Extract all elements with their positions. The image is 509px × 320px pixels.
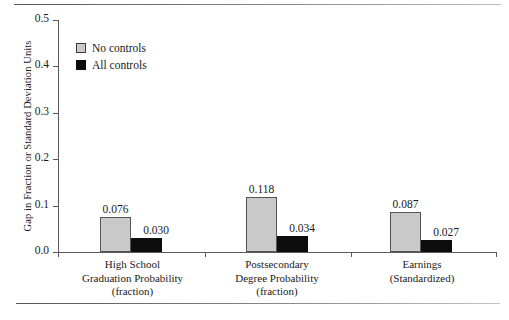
bar-value-no-controls-earnings: 0.087 (393, 198, 419, 210)
y-tick-label-5: 0.5 (35, 12, 49, 24)
chart-legend: No controls All controls (76, 40, 147, 74)
x-category-line-3: (fraction) (198, 285, 356, 299)
legend-label-all-controls: All controls (92, 59, 147, 71)
x-category-line-1: High School (50, 258, 215, 272)
bar-all-controls-earnings: 0.027 (421, 240, 452, 253)
x-tick-end (496, 252, 497, 257)
bar-value-no-controls-high-school: 0.076 (103, 203, 129, 215)
y-axis-title: Gap in Fraction or Standard Deviation Un… (22, 20, 36, 252)
top-rule (14, 4, 501, 5)
y-tick-5: 0.5 (53, 20, 58, 21)
bar-value-all-controls-high-school: 0.030 (143, 224, 169, 236)
bar-no-controls-earnings: 0.087 (390, 212, 421, 252)
y-tick-2: 0.2 (53, 159, 58, 160)
bar-no-controls-postsecondary: 0.118 (246, 197, 277, 252)
x-category-label-postsecondary: Postsecondary Degree Probability (fracti… (198, 258, 356, 299)
y-tick-1: 0.1 (53, 206, 58, 207)
x-category-line-1: Earnings (348, 258, 496, 272)
x-category-label-high-school: High School Graduation Probability (frac… (50, 258, 215, 299)
x-tick-2 (351, 252, 352, 257)
bar-value-all-controls-earnings: 0.027 (433, 226, 459, 238)
y-tick-label-4: 0.4 (35, 58, 49, 70)
x-tick-1 (205, 252, 206, 257)
bar-all-controls-high-school: 0.030 (131, 238, 162, 252)
legend-item-no-controls: No controls (76, 40, 147, 55)
x-tick-start (58, 252, 59, 257)
y-tick-label-1: 0.1 (35, 198, 49, 210)
x-axis-line (58, 252, 497, 253)
bar-value-all-controls-postsecondary: 0.034 (289, 222, 315, 234)
y-tick-label-2: 0.2 (35, 151, 49, 163)
x-category-line-3: (fraction) (50, 285, 215, 299)
y-tick-label-3: 0.3 (35, 105, 49, 117)
legend-swatch-no-controls (76, 43, 86, 53)
bar-all-controls-postsecondary: 0.034 (277, 236, 308, 252)
legend-label-no-controls: No controls (92, 42, 146, 54)
bar-value-no-controls-postsecondary: 0.118 (249, 183, 274, 195)
figure-container: Gap in Fraction or Standard Deviation Un… (0, 0, 509, 320)
legend-item-all-controls: All controls (76, 57, 147, 72)
x-category-line-2: (Standardized) (348, 272, 496, 286)
y-tick-3: 0.3 (53, 113, 58, 114)
y-axis-line (58, 20, 59, 252)
bottom-rule (16, 303, 500, 304)
legend-swatch-all-controls (76, 60, 86, 70)
x-category-line-2: Graduation Probability (50, 272, 215, 286)
x-category-label-earnings: Earnings (Standardized) (348, 258, 496, 285)
x-category-line-1: Postsecondary (198, 258, 356, 272)
y-tick-4: 0.4 (53, 66, 58, 67)
y-tick-label-0: 0.0 (35, 244, 49, 256)
x-category-line-2: Degree Probability (198, 272, 356, 286)
bar-no-controls-high-school: 0.076 (100, 217, 131, 252)
